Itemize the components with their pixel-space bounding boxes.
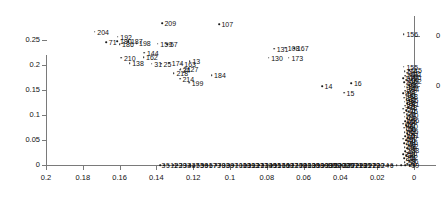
data-point-label: 13 (192, 58, 200, 65)
data-point (129, 62, 131, 64)
right-tick-label: 0 (436, 32, 440, 40)
y-tick-mark (42, 65, 47, 66)
y-tick-mark (42, 115, 47, 116)
data-point (151, 63, 153, 65)
x-tick-label: 0.14 (149, 174, 164, 182)
data-point-label: 167 (297, 45, 309, 52)
data-point (94, 31, 96, 33)
data-point (167, 43, 169, 45)
data-point-label: 107 (221, 21, 233, 28)
data-point (173, 72, 175, 74)
x-tick-label: 0.2 (41, 174, 51, 182)
data-point (294, 47, 296, 49)
scatter-plot: 00.050.10.150.20.25 0.20.180.160.140.120… (0, 0, 448, 210)
data-point-label: 204 (97, 28, 109, 35)
data-point (284, 47, 286, 49)
data-point (161, 22, 163, 24)
data-point-label: 156 (406, 31, 418, 38)
data-point (403, 33, 405, 35)
data-point (143, 56, 145, 58)
data-point-label: 198 (139, 40, 151, 47)
data-point-label: 199 (192, 79, 204, 86)
data-point (211, 74, 213, 76)
data-point-label: 16 (354, 80, 362, 87)
right-cluster-point-label: 115 (411, 67, 422, 74)
data-point-label: 27 (191, 65, 199, 72)
data-point (218, 23, 220, 25)
y-tick-label: 0.15 (8, 86, 40, 94)
y-tick-label: 0 (8, 161, 40, 169)
x-tick-label: 0.02 (370, 174, 385, 182)
data-point (321, 85, 323, 87)
data-point-label: 173 (291, 54, 303, 61)
data-point (117, 40, 119, 42)
x-tick-mark (120, 165, 121, 170)
x-tick-label: 0.18 (75, 174, 90, 182)
data-point (157, 43, 159, 45)
data-point (268, 57, 270, 59)
data-point (273, 48, 275, 50)
x-tick-label: 0.08 (259, 174, 274, 182)
x-tick-label: 0.06 (296, 174, 311, 182)
data-point-label: 184 (214, 72, 226, 79)
data-point (136, 42, 138, 44)
data-point (144, 52, 146, 54)
data-point (351, 82, 353, 84)
baseline-cluster (155, 158, 415, 172)
data-point-label: 138 (132, 60, 144, 67)
x-tick-mark (83, 165, 84, 170)
y-tick-mark (42, 140, 47, 141)
data-point (403, 66, 405, 68)
data-point (119, 43, 121, 45)
data-point-label: 131 (277, 45, 289, 52)
data-point (168, 62, 170, 64)
data-point-label: 15 (347, 89, 355, 96)
data-point (117, 36, 119, 38)
data-point (121, 57, 123, 59)
data-point (179, 78, 181, 80)
data-point-label: 130 (271, 54, 283, 61)
y-tick-mark (42, 40, 47, 41)
data-point (188, 82, 190, 84)
data-point-label: 57 (170, 41, 178, 48)
x-tick-label: 0.1 (225, 174, 235, 182)
data-point (189, 60, 191, 62)
right-vertical-cluster (404, 78, 448, 168)
y-axis-line (46, 55, 47, 165)
data-point-label: 25 (164, 60, 172, 67)
x-tick-label: 0.12 (186, 174, 201, 182)
data-point-label: 14 (325, 83, 333, 90)
y-tick-label: 0.2 (8, 61, 40, 69)
y-tick-mark (42, 90, 47, 91)
y-tick-label: 0.25 (8, 36, 40, 44)
data-point (106, 41, 108, 43)
data-point-label: 71 (109, 39, 117, 46)
y-tick-label: 0.05 (8, 136, 40, 144)
y-tick-label: 0.1 (8, 111, 40, 119)
data-point-label: 186 (122, 41, 134, 48)
data-point (288, 57, 290, 59)
x-tick-label: 0.16 (112, 174, 127, 182)
data-point-label: 209 (164, 20, 176, 27)
x-tick-label: 0.04 (333, 174, 348, 182)
data-point (343, 92, 345, 94)
data-point (160, 63, 162, 65)
x-tick-label: 0 (412, 174, 416, 182)
x-tick-mark (46, 165, 47, 170)
